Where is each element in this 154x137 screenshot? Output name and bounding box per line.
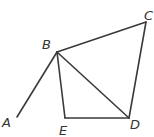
- segment-be: [57, 52, 65, 118]
- segment-bc: [57, 22, 146, 52]
- label-e: E: [59, 123, 68, 137]
- segment-ab: [17, 52, 57, 117]
- geometry-diagram: A B C D E: [0, 0, 154, 137]
- segments: [17, 22, 146, 118]
- label-d: D: [130, 117, 140, 132]
- label-a: A: [1, 115, 11, 130]
- segment-cd: [129, 22, 146, 118]
- segment-bd: [57, 52, 129, 118]
- label-c: C: [144, 8, 154, 23]
- label-b: B: [42, 37, 51, 52]
